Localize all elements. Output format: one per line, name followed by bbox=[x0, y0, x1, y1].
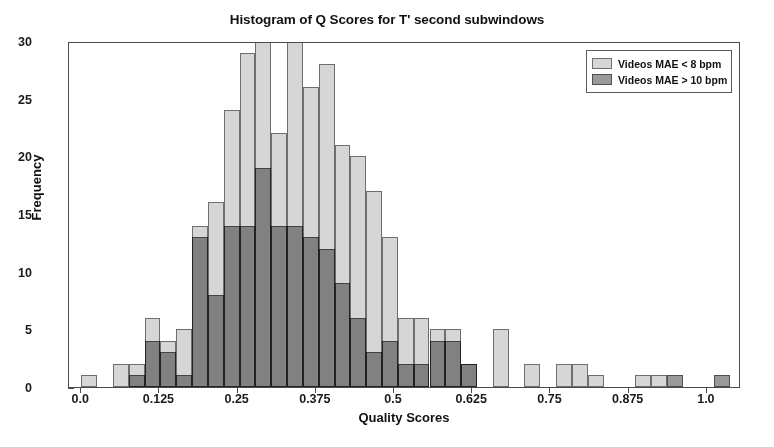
x-tick-label: 0.0 bbox=[50, 392, 110, 406]
x-tick-label: 0.875 bbox=[598, 392, 658, 406]
histogram-bar bbox=[635, 375, 651, 387]
histogram-bar bbox=[556, 364, 572, 387]
x-tick-label: 0.625 bbox=[441, 392, 501, 406]
x-tick-mark bbox=[393, 388, 394, 393]
histogram-bar bbox=[493, 329, 509, 387]
histogram-bar bbox=[240, 226, 256, 387]
x-tick-label: 0.125 bbox=[128, 392, 188, 406]
x-axis-label: Quality Scores bbox=[68, 410, 740, 425]
y-tick-label: 10 bbox=[0, 266, 32, 280]
x-tick-mark bbox=[158, 388, 159, 393]
histogram-bar bbox=[430, 341, 446, 387]
x-tick-label: 0.25 bbox=[207, 392, 267, 406]
histogram-bar bbox=[572, 364, 588, 387]
y-tick-label: 15 bbox=[0, 208, 32, 222]
histogram-bars bbox=[69, 43, 739, 387]
y-tick-label: 20 bbox=[0, 150, 32, 164]
histogram-bar bbox=[303, 237, 319, 387]
histogram-bar bbox=[350, 318, 366, 387]
histogram-bar bbox=[255, 168, 271, 387]
x-tick-label: 0.75 bbox=[519, 392, 579, 406]
histogram-bar bbox=[445, 341, 461, 387]
histogram-bar bbox=[160, 352, 176, 387]
y-tick-label: 5 bbox=[0, 323, 32, 337]
histogram-bar bbox=[208, 295, 224, 387]
histogram-bar bbox=[129, 375, 145, 387]
plot-area bbox=[68, 42, 740, 388]
x-tick-label: 0.5 bbox=[363, 392, 423, 406]
legend-label-light: Videos MAE < 8 bpm bbox=[618, 58, 721, 70]
histogram-bar bbox=[461, 364, 477, 387]
histogram-bar bbox=[224, 226, 240, 387]
x-tick-mark bbox=[315, 388, 316, 393]
y-tick-label: 30 bbox=[0, 35, 32, 49]
x-tick-mark bbox=[706, 388, 707, 393]
histogram-bar bbox=[319, 249, 335, 387]
histogram-bar bbox=[588, 375, 604, 387]
histogram-bar bbox=[81, 375, 97, 387]
y-tick-label: 0 bbox=[0, 381, 32, 395]
histogram-bar bbox=[382, 341, 398, 387]
histogram-bar bbox=[145, 341, 161, 387]
histogram-bar bbox=[192, 237, 208, 387]
x-tick-mark bbox=[80, 388, 81, 393]
histogram-bar bbox=[366, 352, 382, 387]
histogram-bar bbox=[287, 226, 303, 387]
x-tick-mark bbox=[549, 388, 550, 393]
y-tick-label: 25 bbox=[0, 93, 32, 107]
legend-item-light: Videos MAE < 8 bpm bbox=[592, 56, 726, 71]
histogram-bar bbox=[271, 226, 287, 387]
legend-label-dark: Videos MAE > 10 bpm bbox=[618, 74, 727, 86]
histogram-figure: Histogram of Q Scores for T' second subw… bbox=[0, 0, 774, 447]
chart-title: Histogram of Q Scores for T' second subw… bbox=[0, 12, 774, 27]
histogram-bar bbox=[335, 283, 351, 387]
histogram-bar bbox=[524, 364, 540, 387]
histogram-bar bbox=[176, 375, 192, 387]
x-tick-mark bbox=[628, 388, 629, 393]
y-axis-label: Frequency bbox=[29, 118, 44, 258]
legend-item-dark: Videos MAE > 10 bpm bbox=[592, 72, 726, 87]
legend-swatch-icon-dark bbox=[592, 74, 612, 85]
histogram-bar bbox=[414, 364, 430, 387]
chart-legend: Videos MAE < 8 bpm Videos MAE > 10 bpm bbox=[586, 50, 732, 93]
x-tick-mark bbox=[471, 388, 472, 393]
y-tick-mark bbox=[68, 388, 74, 389]
histogram-bar bbox=[398, 364, 414, 387]
histogram-bar bbox=[113, 364, 129, 387]
x-tick-label: 1.0 bbox=[676, 392, 736, 406]
x-tick-label: 0.375 bbox=[285, 392, 345, 406]
legend-swatch-icon-light bbox=[592, 58, 612, 69]
histogram-bar bbox=[651, 375, 667, 387]
histogram-bar bbox=[714, 375, 730, 387]
x-tick-mark bbox=[237, 388, 238, 393]
histogram-bar bbox=[667, 375, 683, 387]
